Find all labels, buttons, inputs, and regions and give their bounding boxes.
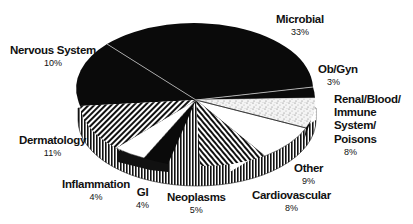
label-name: GI bbox=[136, 186, 149, 199]
label-name: Cardiovascular bbox=[252, 189, 331, 202]
label-pct: 10% bbox=[10, 58, 96, 68]
label-pct: 11% bbox=[19, 148, 86, 158]
label-dermatology: Dermatology 11% bbox=[19, 134, 86, 159]
label-pct: 3% bbox=[327, 77, 358, 87]
label-name: Microbial bbox=[276, 13, 324, 26]
label-other: Other 9% bbox=[294, 162, 323, 187]
label-nervous-system: Nervous System 10% bbox=[10, 44, 96, 69]
label-gi: GI 4% bbox=[136, 186, 149, 211]
pie-slices bbox=[76, 23, 315, 166]
label-pct: 33% bbox=[276, 27, 324, 37]
label-microbial: Microbial 33% bbox=[276, 13, 324, 38]
label-name-line4: Poisons bbox=[334, 133, 401, 146]
label-neoplasms: Neoplasms 5% bbox=[167, 191, 226, 216]
label-cardiovascular: Cardiovascular 8% bbox=[252, 189, 331, 214]
label-name: Inflammation bbox=[62, 178, 130, 191]
label-name: Dermatology bbox=[19, 134, 86, 147]
label-pct: 8% bbox=[344, 147, 401, 157]
label-inflammation: Inflammation 4% bbox=[62, 178, 130, 203]
label-name-line1: Renal/Blood/ bbox=[334, 93, 401, 106]
label-pct: 5% bbox=[167, 205, 226, 215]
label-obgyn: Ob/Gyn 3% bbox=[318, 63, 358, 88]
label-name: Nervous System bbox=[10, 44, 96, 57]
label-name-line3: System/ bbox=[334, 119, 401, 132]
label-name: Other bbox=[294, 162, 323, 175]
label-name: Ob/Gyn bbox=[318, 63, 358, 76]
label-pct: 9% bbox=[294, 176, 323, 186]
label-pct: 4% bbox=[62, 192, 130, 202]
label-renal: Renal/Blood/ Immune System/ Poisons 8% bbox=[334, 93, 401, 157]
label-pct: 4% bbox=[136, 200, 149, 210]
label-name: Neoplasms bbox=[167, 191, 226, 204]
label-name-line2: Immune bbox=[334, 106, 401, 119]
label-pct: 8% bbox=[252, 203, 331, 213]
